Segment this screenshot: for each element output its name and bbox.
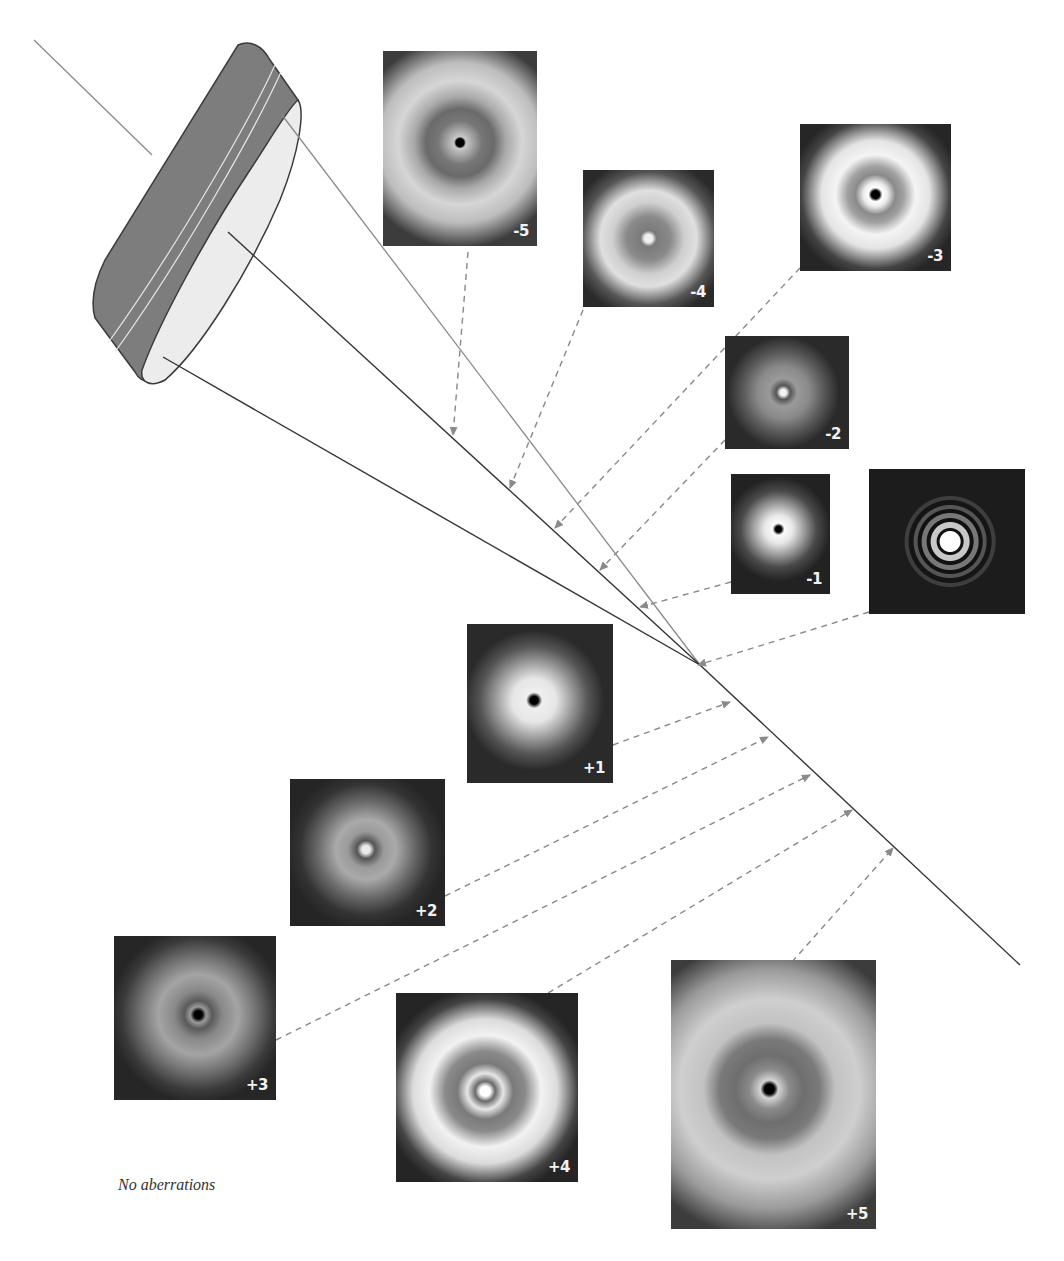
defocus-label: +5 (846, 1205, 868, 1223)
defocus-label: -1 (806, 570, 822, 588)
defocus-label: -3 (927, 247, 943, 265)
defocus-label: +1 (583, 759, 605, 777)
defocus-label: -4 (690, 283, 706, 301)
psf-panel-minus-2: -2 (725, 336, 849, 449)
lens (93, 43, 301, 384)
psf-panel-plus-5: +5 (671, 960, 876, 1229)
incoming-ray (34, 40, 152, 155)
psf-panel-plus-3: +3 (114, 936, 276, 1100)
defocus-label: -2 (825, 425, 841, 443)
psf-panel-plus-4: +4 (396, 993, 578, 1182)
defocus-label: +2 (415, 902, 437, 920)
lower-marginal-ray (163, 357, 700, 665)
psf-panel-plus-2: +2 (290, 779, 445, 926)
psf-panel-minus-1: -1 (731, 474, 830, 594)
diverging-ray (700, 665, 1020, 965)
defocus-label: +4 (548, 1158, 570, 1176)
figure-caption: No aberrations (118, 1176, 215, 1194)
defocus-label: -5 (513, 222, 529, 240)
psf-panel-minus-4: -4 (583, 170, 714, 307)
psf-panel-ideal-focus (869, 469, 1025, 614)
psf-panel-minus-3: -3 (800, 124, 951, 271)
defocus-label: +3 (246, 1076, 268, 1094)
psf-panel-minus-5: -5 (383, 51, 537, 246)
psf-panel-plus-1: +1 (467, 624, 613, 783)
